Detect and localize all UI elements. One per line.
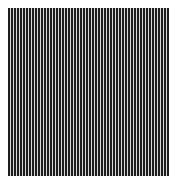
vertical-stripe-pattern bbox=[8, 8, 169, 176]
